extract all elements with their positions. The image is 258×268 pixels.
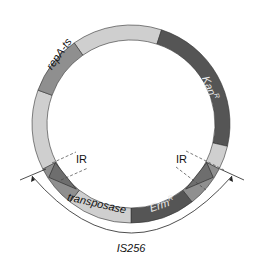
is256-label: IS256 xyxy=(117,242,147,254)
backbone-left-segment xyxy=(32,90,56,169)
ir-left-label: IR xyxy=(76,153,87,165)
backbone-top-segment xyxy=(74,25,161,55)
plasmid-map: repA-tsKanRtransposaseErmRIRIRIS256 xyxy=(0,0,258,268)
kan-r-segment xyxy=(157,30,230,146)
ir-right-label: IR xyxy=(176,153,187,165)
